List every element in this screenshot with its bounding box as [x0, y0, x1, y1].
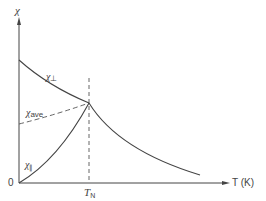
chi-perpendicular-label: χ⊥: [46, 72, 57, 83]
x-axis-label: T (K): [232, 178, 254, 188]
y-axis-label: χ: [15, 5, 20, 16]
chi-parallel-label: χ∥: [25, 160, 33, 171]
susceptibility-diagram: [0, 0, 266, 201]
paramagnetic-curve: [89, 103, 200, 175]
chi-average-label: χave: [26, 108, 43, 119]
neel-temperature-label: TN: [84, 187, 95, 199]
neel-label-sub: N: [90, 192, 95, 199]
origin-label: 0: [8, 178, 14, 188]
x-axis-arrow-icon: [222, 181, 230, 185]
y-axis-arrow-icon: [17, 17, 21, 25]
